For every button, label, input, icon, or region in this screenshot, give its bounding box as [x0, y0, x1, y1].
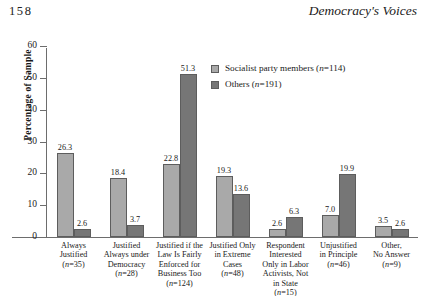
bar-value-label: 26.3 [52, 143, 79, 152]
y-axis-tick [40, 142, 47, 143]
legend-label: Others (n=191) [225, 78, 281, 91]
y-axis-tick-label: 10 [0, 199, 37, 209]
bar [339, 174, 356, 237]
x-axis-category-label: AlwaysJustified(n=35) [44, 241, 103, 269]
bar-value-label: 18.4 [105, 168, 132, 177]
y-axis-tick [40, 46, 47, 47]
x-axis-line [12, 237, 418, 238]
bar [127, 225, 144, 237]
bar [110, 178, 127, 237]
bar [74, 229, 91, 237]
y-axis-tick [40, 237, 47, 238]
x-axis-category-label: JustifiedAlways underDemocracy(n=28) [97, 241, 156, 279]
x-axis-category-label: Unjustifiedin Principle(n=46) [309, 241, 368, 269]
bar-chart: Percentage of Sample 0102030405060 26.32… [0, 0, 427, 296]
legend-entry: Others (n=191) [211, 78, 345, 91]
bar [322, 215, 339, 237]
bar-value-label: 2.6 [387, 219, 414, 228]
y-axis-tick [40, 78, 47, 79]
bar [286, 217, 303, 237]
legend-swatch [211, 81, 219, 89]
bar [233, 194, 250, 237]
x-axis-category-label: Justified Onlyin ExtremeCases(n=48) [203, 241, 262, 279]
y-axis-tick-label: 60 [0, 40, 37, 50]
y-axis-tick-label: 50 [0, 72, 37, 82]
x-axis-category-label: Other,No Answer(n=9) [362, 241, 421, 269]
bar [269, 229, 286, 237]
y-axis-tick [40, 110, 47, 111]
y-axis-tick-label: 30 [0, 136, 37, 146]
bar-value-label: 13.6 [228, 184, 255, 193]
bar [163, 164, 180, 237]
chart-legend: Socialist party members (n=114)Others (n… [211, 62, 345, 94]
bar-value-label: 2.6 [69, 219, 96, 228]
y-axis-tick-label: 0 [0, 231, 37, 241]
y-axis-tick-label: 20 [0, 167, 37, 177]
legend-label: Socialist party members (n=114) [225, 62, 345, 75]
page: 158 Democracy's Voices Percentage of Sam… [0, 0, 427, 296]
bar-value-label: 19.9 [334, 164, 361, 173]
bar-value-label: 19.3 [211, 166, 238, 175]
bar-value-label: 3.7 [122, 215, 149, 224]
y-axis-tick [40, 205, 47, 206]
bar [392, 229, 409, 237]
bar-value-label: 51.3 [175, 64, 202, 73]
x-axis-category-label: Justified if theLaw Is FairlyEnforced fo… [150, 241, 209, 288]
bar-value-label: 6.3 [281, 207, 308, 216]
x-axis-category-label: RespondentInterestedOnly in LaborActivis… [256, 241, 315, 296]
legend-swatch [211, 65, 219, 73]
y-axis-tick [40, 173, 47, 174]
legend-entry: Socialist party members (n=114) [211, 62, 345, 75]
bar [180, 74, 197, 237]
y-axis-tick-label: 40 [0, 104, 37, 114]
